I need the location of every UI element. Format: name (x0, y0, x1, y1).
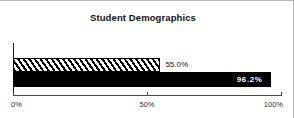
x-tick-label-0: 0% (11, 100, 22, 109)
chart-figure: Student Demographics 55.0% 96.2% 0% 50% … (0, 0, 294, 118)
x-tick-mark-50 (147, 92, 148, 96)
bar-series-2 (13, 72, 271, 87)
chart-title: Student Demographics (0, 12, 286, 24)
x-tick-mark-100 (281, 92, 282, 96)
bar-series-1 (13, 58, 160, 72)
x-tick-mark-0 (13, 92, 14, 96)
bar-label-series-1: 55.0% (165, 60, 188, 70)
x-tick-label-100: 100% (264, 100, 283, 109)
bar-label-series-2: 96.2% (237, 75, 263, 85)
x-tick-label-50: 50% (139, 100, 154, 109)
